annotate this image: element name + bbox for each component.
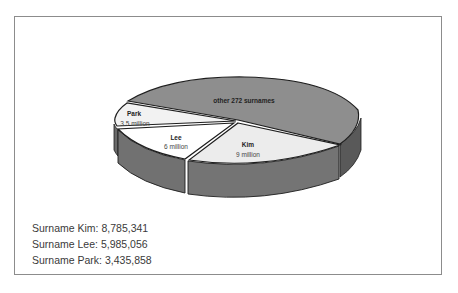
lee-slice-value: 6 million — [164, 143, 188, 150]
surname-stats: Surname Kim: 8,785,341 Surname Lee: 5,98… — [32, 220, 152, 268]
stat-lee: Surname Lee: 5,985,056 — [32, 236, 152, 252]
lee-slice-label: Lee — [170, 134, 182, 141]
park-slice-value: 3.5 million — [120, 120, 150, 127]
kim-slice-value: 9 million — [236, 151, 260, 158]
stat-kim: Surname Kim: 8,785,341 — [32, 220, 152, 236]
park-slice-label: Park — [127, 110, 141, 117]
other-slice-label: other 272 surnames — [213, 97, 275, 104]
kim-slice-label: Kim — [242, 141, 255, 148]
stat-park: Surname Park: 3,435,858 — [32, 252, 152, 268]
